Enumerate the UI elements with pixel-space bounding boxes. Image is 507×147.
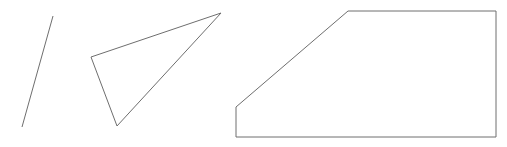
- canvas-background: [0, 0, 507, 147]
- figures-canvas: [0, 0, 507, 147]
- figures-svg: [0, 0, 507, 147]
